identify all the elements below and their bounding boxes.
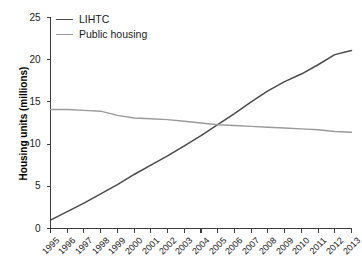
axes-group bbox=[47, 18, 352, 233]
series-group bbox=[51, 50, 352, 220]
y-tick-label-20: 20 bbox=[17, 55, 41, 65]
y-tick-label-0: 0 bbox=[17, 224, 41, 234]
series-line-public-housing bbox=[51, 110, 352, 133]
y-tick-label-10: 10 bbox=[17, 139, 41, 149]
y-tick-label-15: 15 bbox=[17, 97, 41, 107]
y-tick-label-5: 5 bbox=[17, 181, 41, 191]
y-tick-label-25: 25 bbox=[17, 13, 41, 23]
x-axis-ticks bbox=[51, 229, 352, 233]
series-line-lihtc bbox=[51, 50, 352, 220]
chart-container: Housing units (millions) LIHTC Public ho… bbox=[0, 0, 362, 280]
y-axis-ticks bbox=[47, 18, 51, 229]
